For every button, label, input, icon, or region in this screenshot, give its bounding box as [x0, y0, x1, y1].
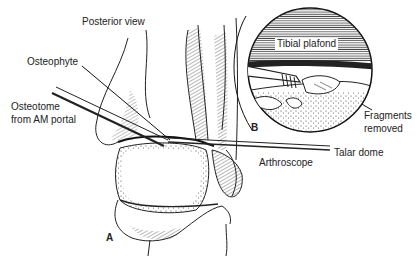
fragments-removed-label-line2: removed	[364, 123, 403, 135]
calcaneus-shading	[130, 226, 182, 240]
posterior-view-label: Posterior view	[82, 16, 145, 28]
tibial-plafond-label: Tibial plafond	[275, 38, 338, 50]
osteophyte-label: Osteophyte	[27, 56, 78, 68]
inset-view-b	[240, 0, 380, 142]
talar-dome-label: Talar dome	[334, 147, 383, 159]
osteotome-label-line1: Osteotome	[11, 101, 60, 113]
fragments-removed-label-line1: Fragments	[364, 110, 412, 122]
arthroscope-label: Arthroscope	[259, 157, 313, 169]
osteotome-label-line2: from AM portal	[11, 114, 76, 126]
tibia-shading	[187, 28, 208, 140]
lateral-malleolus	[212, 150, 242, 197]
panel-b-label: B	[251, 122, 258, 134]
fibula-shading	[214, 32, 228, 150]
anatomy-drawing	[0, 0, 417, 259]
ankle-arthroscopy-illustration: Posterior view Osteophyte Osteotome from…	[0, 0, 417, 259]
panel-a-label: A	[106, 232, 113, 244]
